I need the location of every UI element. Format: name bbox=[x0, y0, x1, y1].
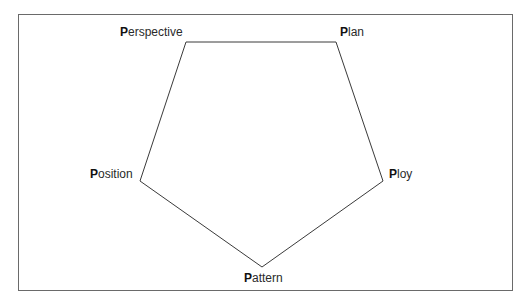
node-label-rest: lan bbox=[348, 25, 364, 39]
node-label-rest: osition bbox=[98, 167, 133, 181]
node-initial: P bbox=[90, 167, 98, 181]
node-label-plan: Plan bbox=[340, 25, 364, 39]
node-initial: P bbox=[389, 167, 397, 181]
node-label-position: Position bbox=[90, 167, 133, 181]
node-initial: P bbox=[244, 271, 252, 285]
node-label-rest: loy bbox=[397, 167, 412, 181]
node-label-rest: erspective bbox=[128, 25, 183, 39]
node-initial: P bbox=[120, 25, 128, 39]
node-initial: P bbox=[340, 25, 348, 39]
node-label-rest: attern bbox=[252, 271, 283, 285]
pentagon-outline bbox=[140, 42, 383, 267]
node-label-perspective: Perspective bbox=[120, 25, 183, 39]
node-label-pattern: Pattern bbox=[244, 271, 283, 285]
pentagon-shape bbox=[0, 0, 530, 307]
node-label-ploy: Ploy bbox=[389, 167, 412, 181]
